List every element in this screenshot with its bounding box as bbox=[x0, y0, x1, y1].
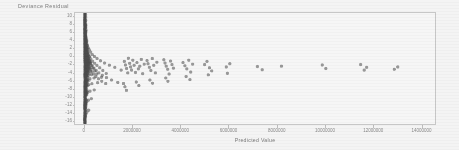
x-tick-mark bbox=[84, 125, 85, 128]
x-axis-tick-labels: 0200000040000006000000800000010000000120… bbox=[74, 128, 436, 136]
x-tick-mark bbox=[325, 125, 326, 128]
x-tick-label: 12000000 bbox=[363, 128, 383, 133]
y-tick-label: -4 bbox=[68, 70, 72, 75]
y-tick-label: -2 bbox=[68, 62, 72, 67]
x-tick-label: 4000000 bbox=[171, 128, 189, 133]
x-tick-mark bbox=[422, 125, 423, 128]
y-tick-label: 10 bbox=[67, 14, 72, 19]
x-tick-label: 10000000 bbox=[315, 128, 335, 133]
x-tick-label: 0 bbox=[82, 128, 85, 133]
y-tick-label: -12 bbox=[65, 103, 72, 108]
y-tick-label: 8 bbox=[69, 22, 72, 27]
x-tick-mark bbox=[180, 125, 181, 128]
x-tick-label: 14000000 bbox=[412, 128, 432, 133]
x-tick-mark bbox=[132, 125, 133, 128]
x-tick-mark bbox=[277, 125, 278, 128]
x-tick-label: 2000000 bbox=[123, 128, 141, 133]
y-tick-label: -6 bbox=[68, 78, 72, 83]
y-tick-label: 2 bbox=[69, 46, 72, 51]
y-tick-label: -8 bbox=[68, 86, 72, 91]
scatter-points-layer bbox=[75, 13, 435, 124]
x-tick-label: 8000000 bbox=[268, 128, 286, 133]
y-axis-tick-labels: 1086420-2-4-6-8-10-12-14-16 bbox=[56, 12, 72, 125]
plot-area bbox=[74, 12, 436, 125]
x-tick-label: 6000000 bbox=[220, 128, 238, 133]
y-tick-label: 6 bbox=[69, 30, 72, 35]
y-tick-label: 4 bbox=[69, 38, 72, 43]
y-tick-label: -10 bbox=[65, 94, 72, 99]
x-axis-label: Predicted Value bbox=[74, 137, 436, 143]
y-tick-label: -16 bbox=[65, 119, 72, 124]
y-axis-label: Deviance Residual bbox=[18, 3, 69, 9]
y-tick-label: 0 bbox=[69, 54, 72, 59]
scatter-plot-figure: Deviance Residual 1086420-2-4-6-8-10-12-… bbox=[0, 0, 459, 150]
y-tick-label: -14 bbox=[65, 111, 72, 116]
x-tick-mark bbox=[373, 125, 374, 128]
x-tick-mark bbox=[228, 125, 229, 128]
